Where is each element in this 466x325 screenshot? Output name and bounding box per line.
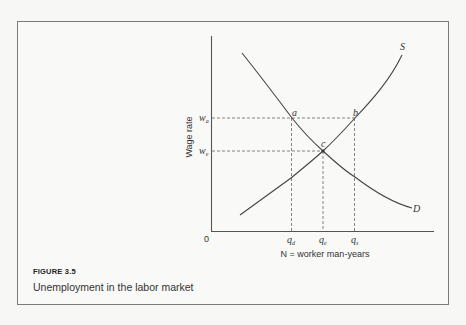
x-axis-title: N = worker man-years	[281, 249, 370, 259]
figure-caption: Unemployment in the labor market	[33, 281, 194, 293]
point-c-marker	[321, 149, 324, 152]
q-e-label: qe	[319, 234, 327, 246]
point-c-label: c	[321, 138, 326, 149]
figure-number: FIGURE 3.5	[33, 267, 76, 276]
demand-curve	[242, 53, 412, 208]
labor-market-chart: S D a b c wa we Wage rate 0 qd qe qs N =…	[0, 0, 466, 325]
supply-label: S	[400, 41, 405, 52]
q-s-label: qs	[351, 234, 359, 246]
supply-curve	[240, 55, 402, 215]
w-e-label: we	[199, 145, 209, 157]
q-d-label: qd	[287, 234, 296, 246]
w-a-label: wa	[199, 112, 209, 124]
demand-label: D	[412, 203, 421, 214]
y-axis-title: Wage rate	[184, 116, 194, 157]
point-a-label: a	[292, 107, 297, 118]
origin-label: 0	[204, 234, 209, 244]
point-b-label: b	[353, 107, 358, 118]
